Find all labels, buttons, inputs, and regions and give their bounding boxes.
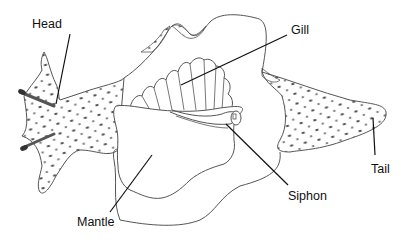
mantle [114, 105, 243, 198]
leader-siphon [226, 124, 288, 185]
sea-hare-diagram [0, 0, 405, 240]
label-gill: Gill [291, 24, 309, 37]
leader-head [56, 34, 70, 104]
label-tail: Tail [371, 163, 390, 176]
head-region [17, 52, 124, 193]
label-siphon: Siphon [288, 190, 327, 203]
label-mantle: Mantle [77, 216, 115, 229]
tail-region [262, 72, 386, 152]
label-head: Head [32, 18, 62, 31]
